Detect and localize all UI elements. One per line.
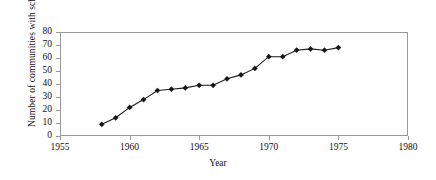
chart-figure: Number of communities with schools Year … <box>0 0 436 180</box>
x-tick-mark <box>60 136 61 140</box>
y-tick-mark <box>56 32 60 33</box>
y-tick-label: 80 <box>26 27 52 37</box>
x-axis-title: Year <box>0 158 436 168</box>
y-tick-label: 70 <box>26 40 52 50</box>
x-tick-mark <box>408 136 409 140</box>
x-tick-mark <box>130 136 131 140</box>
y-tick-label: 20 <box>26 105 52 115</box>
y-tick-mark <box>56 123 60 124</box>
x-tick-label: 1980 <box>388 143 428 153</box>
y-tick-label: 40 <box>26 79 52 89</box>
x-tick-label: 1955 <box>40 143 80 153</box>
y-tick-label: 30 <box>26 92 52 102</box>
x-tick-label: 1960 <box>110 143 150 153</box>
x-tick-mark <box>199 136 200 140</box>
y-tick-label: 0 <box>26 131 52 141</box>
x-tick-label: 1970 <box>249 143 289 153</box>
y-tick-label: 10 <box>26 118 52 128</box>
y-tick-mark <box>56 110 60 111</box>
x-tick-label: 1975 <box>318 143 358 153</box>
y-tick-label: 50 <box>26 66 52 76</box>
y-tick-label: 60 <box>26 53 52 63</box>
y-tick-mark <box>56 71 60 72</box>
y-tick-mark <box>56 84 60 85</box>
x-tick-mark <box>338 136 339 140</box>
y-tick-mark <box>56 45 60 46</box>
plot-area <box>60 32 408 136</box>
y-tick-mark <box>56 58 60 59</box>
x-tick-mark <box>269 136 270 140</box>
y-tick-mark <box>56 97 60 98</box>
x-tick-label: 1965 <box>179 143 219 153</box>
